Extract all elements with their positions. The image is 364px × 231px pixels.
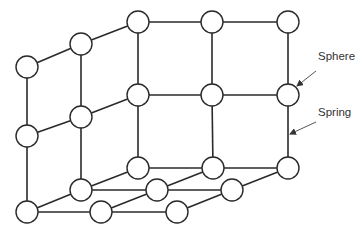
sphere-a1 (202, 157, 224, 179)
sphere-t1 (70, 33, 92, 55)
sphere-t2 (127, 11, 149, 33)
sphere-t0 (16, 56, 38, 78)
sphere-a2 (277, 157, 299, 179)
spring-arrow-icon (290, 122, 316, 134)
sphere-c1 (90, 201, 112, 223)
sphere-m4 (277, 84, 299, 106)
sphere-t4 (277, 11, 299, 33)
sphere-nodes (16, 11, 299, 223)
lattice-canvas (0, 0, 364, 231)
lattice-diagram: Sphere Spring (0, 0, 364, 231)
sphere-b0 (70, 179, 92, 201)
sphere-m0 (16, 125, 38, 147)
spring-label: Spring (318, 106, 351, 118)
sphere-m2 (127, 84, 149, 106)
sphere-m1 (70, 106, 92, 128)
sphere-c0 (16, 201, 38, 223)
sphere-label: Sphere (318, 50, 355, 62)
sphere-c2 (166, 201, 188, 223)
sphere-m3 (201, 84, 223, 106)
sphere-a0 (127, 157, 149, 179)
sphere-t3 (201, 11, 223, 33)
sphere-b1 (146, 179, 168, 201)
sphere-b2 (221, 179, 243, 201)
sphere-arrow-icon (297, 71, 316, 86)
